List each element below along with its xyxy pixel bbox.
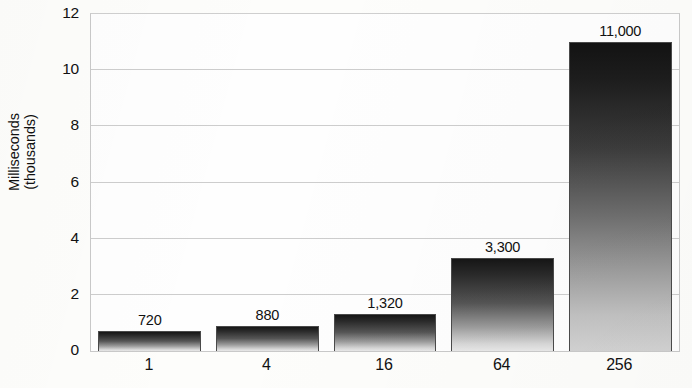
bar [569, 42, 672, 351]
y-axis-tick-label: 6 [36, 173, 88, 191]
x-axis-tick-label: 1 [144, 356, 153, 374]
x-axis-tick-label: 64 [493, 356, 510, 374]
bar-value-label: 3,300 [485, 239, 520, 255]
y-axis-tick-label: 0 [36, 341, 88, 359]
bar-value-label: 880 [256, 307, 280, 323]
y-axis-tick-label: 8 [36, 116, 88, 134]
y-axis-tick-labels: 024681012 [36, 0, 88, 388]
bar [216, 326, 319, 351]
bar-value-label: 720 [138, 312, 162, 328]
bar [98, 331, 201, 351]
y-axis-tick-label: 10 [36, 60, 88, 78]
bar-chart: Milliseconds (thousands) 024681012 72088… [0, 0, 692, 388]
y-axis-tick-label: 2 [36, 285, 88, 303]
x-axis-tick-labels: 141664256 [90, 356, 680, 388]
bar [451, 258, 554, 351]
bar-value-label: 11,000 [599, 23, 641, 39]
x-axis-tick-label: 4 [262, 356, 271, 374]
bar [334, 314, 437, 351]
bar-value-label: 1,320 [367, 295, 402, 311]
y-axis-title-line-1: Milliseconds [6, 113, 22, 191]
plot-area: 7208801,3203,30011,000 [90, 13, 680, 352]
y-axis-tick-label: 4 [36, 229, 88, 247]
x-axis-tick-label: 256 [606, 356, 632, 374]
y-axis-tick-label: 12 [36, 4, 88, 22]
x-axis-tick-label: 16 [375, 356, 392, 374]
